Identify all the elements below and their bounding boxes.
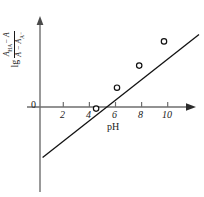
numerator-rest: − A xyxy=(2,32,11,43)
x-axis-ticks xyxy=(63,102,167,107)
data-point xyxy=(93,106,98,111)
y-axis-arrowhead xyxy=(37,16,44,25)
y-tick-label-0: 0 xyxy=(31,100,36,110)
x-tick-label-6: 6 xyxy=(112,110,117,120)
data-point xyxy=(114,85,119,90)
y-axis-title: lg AHA− A A − AA⁻ xyxy=(3,31,25,111)
numerator-symbol: A xyxy=(2,52,11,57)
x-axis-title: pH xyxy=(107,122,119,132)
numerator-subscript: HA xyxy=(7,44,13,52)
y-axis-title-prefix: lg xyxy=(9,60,20,68)
data-point xyxy=(161,39,166,44)
data-point xyxy=(137,63,142,68)
fraction-numerator: AHA− A xyxy=(3,31,13,57)
fit-line xyxy=(43,35,199,158)
x-tick-label-2: 2 xyxy=(60,110,65,120)
figure-canvas: 2 4 6 8 10 0 pH lg AHA− A A − AA⁻ xyxy=(0,0,204,197)
x-tick-label-4: 4 xyxy=(86,110,91,120)
y-axis-title-fraction: AHA− A A − AA⁻ xyxy=(3,31,25,58)
denominator-subscript: A⁻ xyxy=(19,32,25,39)
data-points xyxy=(93,39,166,112)
x-tick-label-8: 8 xyxy=(138,110,143,120)
fraction-denominator: A − AA⁻ xyxy=(15,31,25,58)
x-axis-arrowhead xyxy=(186,103,196,111)
denominator-symbol: A − A xyxy=(14,39,23,57)
x-tick-label-10: 10 xyxy=(162,110,172,120)
